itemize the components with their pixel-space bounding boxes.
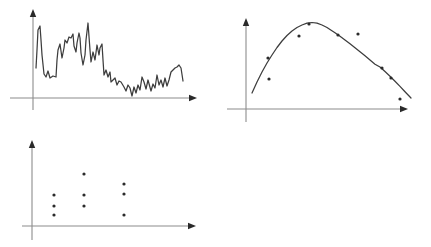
x-axis-arrow-icon — [188, 223, 196, 229]
y-axis-arrow-icon — [29, 140, 35, 148]
data-point — [336, 33, 339, 36]
sketch-figure — [0, 0, 431, 247]
data-point — [82, 193, 85, 196]
chart-scatter-curve — [227, 18, 411, 122]
chart-noisy-line — [10, 9, 197, 110]
x-axis-arrow-icon — [189, 95, 197, 101]
data-point — [82, 204, 85, 207]
data-point — [122, 182, 125, 185]
data-point — [122, 213, 125, 216]
data-point — [52, 193, 55, 196]
data-point — [122, 192, 125, 195]
data-point — [52, 213, 55, 216]
data-point — [297, 34, 300, 37]
y-axis-arrow-icon — [30, 9, 36, 17]
x-axis-arrow-icon — [400, 106, 408, 112]
data-line — [36, 23, 183, 96]
data-point — [398, 97, 401, 100]
data-point — [82, 172, 85, 175]
data-point — [380, 66, 383, 69]
y-axis-arrow-icon — [243, 18, 249, 26]
data-point — [307, 22, 310, 25]
data-point — [266, 56, 269, 59]
data-point — [52, 204, 55, 207]
chart-column-scatter — [22, 140, 196, 240]
data-point — [356, 32, 359, 35]
fitted-curve — [252, 23, 411, 99]
charts-svg — [0, 0, 431, 247]
data-point — [267, 77, 270, 80]
data-point — [389, 76, 392, 79]
